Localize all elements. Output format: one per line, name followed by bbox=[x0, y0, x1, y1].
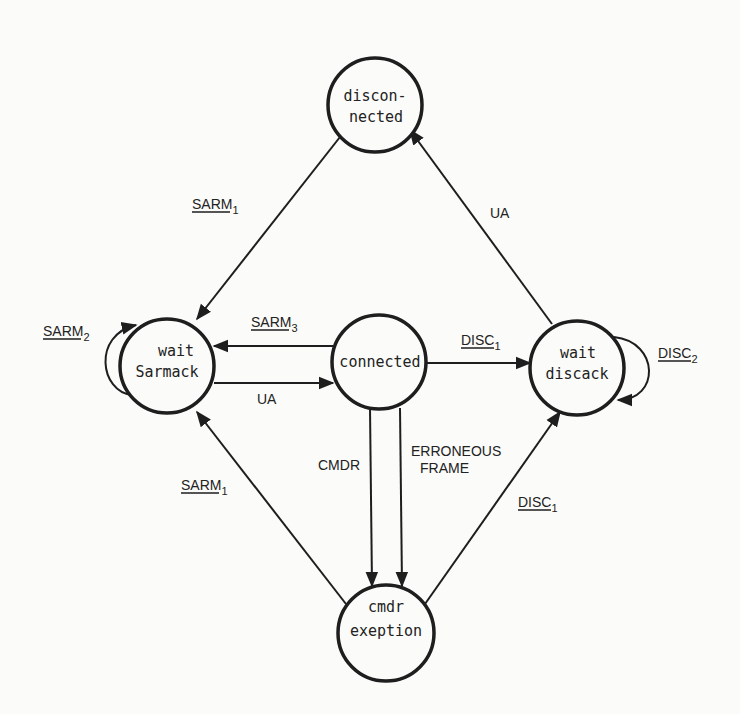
state-label-wait-sarmack-2: Sarmack bbox=[135, 363, 198, 381]
edge-label-t8: CMDR bbox=[318, 457, 360, 473]
edge-disconnected-to-wait-sarmack bbox=[197, 137, 340, 319]
state-label-cmdr-exeption-1: cmdr bbox=[368, 598, 404, 616]
edge-connected-to-cmdr-cmdr bbox=[370, 408, 372, 586]
edge-label-t9-line1: ERRONEOUS bbox=[411, 443, 501, 459]
edge-label-t11: DISC1 bbox=[518, 494, 558, 514]
state-label-wait-sarmack-1: wait bbox=[158, 342, 194, 360]
state-label-cmdr-exeption-2: exeption bbox=[350, 622, 422, 640]
edge-label-t4: UA bbox=[257, 391, 277, 407]
edge-label-t10: SARM1 bbox=[181, 477, 228, 497]
edge-label-t9-line2: FRAME bbox=[420, 460, 469, 476]
edge-label-t2: SARM2 bbox=[43, 323, 90, 343]
edge-connected-to-cmdr-erroneous bbox=[400, 408, 402, 586]
edge-label-t5: DISC1 bbox=[461, 332, 501, 352]
state-label-disconnected-2: nected bbox=[349, 108, 403, 126]
state-label-wait-discack-1: wait bbox=[560, 344, 596, 362]
edge-label-t7: UA bbox=[490, 205, 510, 221]
edge-label-t6: DISC2 bbox=[658, 345, 698, 365]
state-disconnected bbox=[328, 58, 422, 152]
edge-label-t1: SARM1 bbox=[192, 196, 239, 216]
edge-label-t3: SARM3 bbox=[251, 314, 298, 334]
edge-cmdr-to-wait-sarmack bbox=[197, 412, 346, 604]
state-label-connected: connected bbox=[339, 353, 420, 371]
state-label-disconnected-1: discon- bbox=[343, 87, 406, 105]
state-diagram: discon- nected wait Sarmack connected wa… bbox=[0, 0, 740, 714]
edge-wait-discack-to-disconnected bbox=[410, 130, 552, 324]
state-label-wait-discack-2: discack bbox=[545, 365, 608, 383]
